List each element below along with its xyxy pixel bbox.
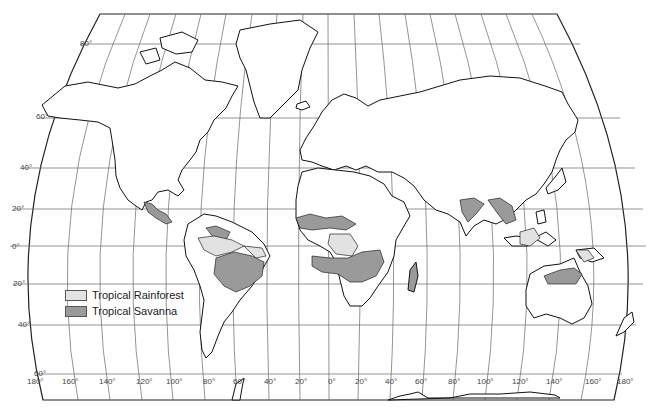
- lon-label: 60°: [233, 378, 245, 386]
- world-map: [0, 0, 653, 413]
- lon-label: 100°: [477, 378, 494, 386]
- map-legend: Tropical Rainforest Tropical Savanna: [65, 288, 184, 320]
- lat-label-40s: 40°: [18, 321, 30, 329]
- lon-label: 120°: [136, 378, 153, 386]
- lon-label: 80°: [448, 378, 460, 386]
- rainforest-swatch: [65, 290, 87, 301]
- lat-label-20s: 20°: [13, 280, 25, 288]
- lon-label: 180°: [617, 378, 634, 386]
- lat-label-0: 0°: [12, 243, 20, 251]
- lon-label: 0°: [328, 378, 336, 386]
- lon-label: 140°: [99, 378, 116, 386]
- legend-item-savanna: Tropical Savanna: [65, 304, 184, 318]
- lon-label: 80°: [203, 378, 215, 386]
- lon-label: 160°: [62, 378, 79, 386]
- legend-label: Tropical Savanna: [92, 305, 177, 317]
- lat-label-60n: 60°: [36, 113, 48, 121]
- lon-label: 180°: [27, 378, 44, 386]
- legend-label: Tropical Rainforest: [92, 289, 184, 301]
- lon-label: 120°: [512, 378, 529, 386]
- lon-label: 100°: [166, 378, 183, 386]
- legend-item-rainforest: Tropical Rainforest: [65, 288, 184, 302]
- lon-label: 20°: [355, 378, 367, 386]
- lon-label: 160°: [585, 378, 602, 386]
- lat-label-80n: 80°: [80, 40, 92, 48]
- lon-label: 60°: [415, 378, 427, 386]
- savanna-swatch: [65, 306, 87, 317]
- lon-label: 40°: [385, 378, 397, 386]
- lon-label: 20°: [295, 378, 307, 386]
- lat-label-20n: 20°: [12, 205, 24, 213]
- lon-label: 40°: [264, 378, 276, 386]
- lon-label: 140°: [546, 378, 563, 386]
- lat-label-40n: 40°: [20, 164, 32, 172]
